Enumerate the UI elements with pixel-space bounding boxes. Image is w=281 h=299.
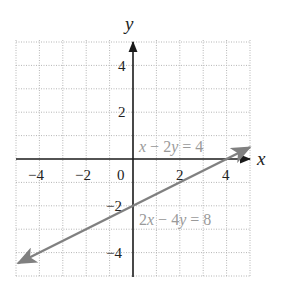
y-tick-label: 2 (118, 104, 126, 120)
line-series (18, 147, 250, 263)
coordinate-plane: x y −4 −2 0 2 4 4 2 −2 −4 x − 2y = 4 2x … (0, 0, 281, 299)
x-tick-label: 0 (117, 167, 125, 183)
x-tick-label: −4 (28, 167, 44, 183)
x-tick-label: −2 (75, 167, 91, 183)
y-tick-label: −4 (106, 245, 122, 261)
x-axis-label: x (256, 148, 266, 169)
equation-label-1: x − 2y = 4 (138, 138, 203, 156)
x-tick-labels: −4 −2 0 2 4 (28, 167, 230, 183)
y-axis-label: y (123, 13, 134, 34)
y-tick-label: 4 (118, 58, 126, 74)
equation-label-2: 2x − 4y = 8 (139, 211, 211, 229)
x-tick-label: 4 (222, 167, 230, 183)
